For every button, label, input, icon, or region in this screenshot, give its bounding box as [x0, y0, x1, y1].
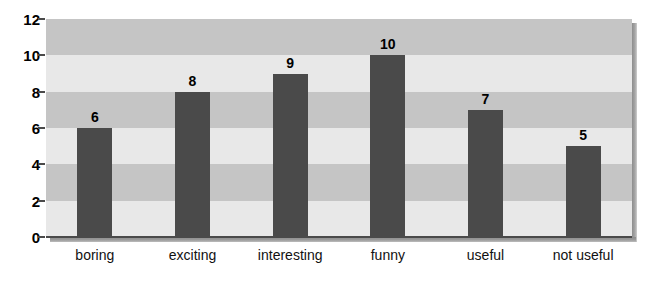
bar-value-label: 7 [482, 92, 490, 106]
y-axis-tick-label: 10 [6, 48, 40, 63]
y-axis: 024681012 [0, 0, 40, 283]
y-axis-tick-mark [38, 127, 45, 129]
bar-value-label: 6 [91, 110, 99, 124]
grid-band [46, 55, 632, 91]
bar [566, 146, 601, 237]
y-axis-tick-mark [38, 236, 45, 238]
x-axis-category-label: not useful [553, 248, 614, 262]
y-axis-tick-label: 8 [6, 84, 40, 99]
plot-shadow-right [632, 23, 637, 242]
grid-band [46, 201, 632, 237]
x-axis-category-label: exciting [169, 248, 216, 262]
grid-band [46, 164, 632, 200]
bar [175, 92, 210, 237]
grid-band [46, 128, 632, 164]
x-axis-category-label: funny [371, 248, 405, 262]
y-axis-tick-mark [38, 163, 45, 165]
bar-chart: 024681012 6891075 boringexcitinginterest… [0, 0, 653, 283]
grid-band [46, 19, 632, 55]
y-axis-tick-label: 2 [6, 193, 40, 208]
bar [273, 74, 308, 238]
bar-value-label: 10 [380, 37, 396, 51]
y-axis-tick-label: 4 [6, 157, 40, 172]
bar [77, 128, 112, 237]
x-axis-category-label: interesting [258, 248, 323, 262]
x-axis-category-label: useful [467, 248, 504, 262]
y-axis-tick-label: 6 [6, 121, 40, 136]
bar [370, 55, 405, 237]
bar-value-label: 5 [579, 128, 587, 142]
bar-value-label: 9 [286, 56, 294, 70]
grid-band [46, 92, 632, 128]
y-axis-tick-mark [38, 91, 45, 93]
x-axis-category-label: boring [75, 248, 114, 262]
y-axis-tick-label: 0 [6, 230, 40, 245]
bar [468, 110, 503, 237]
y-axis-tick-label: 12 [6, 12, 40, 27]
y-axis-tick-mark [38, 200, 45, 202]
y-axis-tick-mark [38, 18, 45, 20]
plot-area [46, 19, 632, 237]
bar-value-label: 8 [189, 74, 197, 88]
x-axis-baseline [46, 236, 632, 238]
y-axis-tick-mark [38, 54, 45, 56]
